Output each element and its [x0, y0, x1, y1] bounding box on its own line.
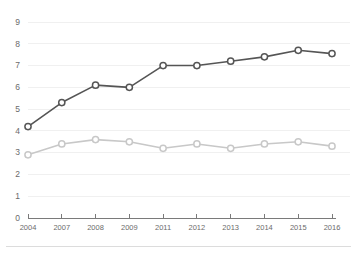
data-point-dark-series	[295, 47, 301, 53]
x-axis-tick-label: 2011	[155, 223, 171, 232]
x-axis-tick-labels: 2004200720082009201120122013201420152016	[20, 223, 341, 232]
y-axis-tick-label: 6	[15, 82, 20, 92]
series-markers	[25, 47, 335, 158]
x-axis-tick-label: 2008	[87, 223, 104, 232]
x-axis-tick-label: 2014	[256, 223, 273, 232]
y-axis-tick-label: 3	[15, 147, 20, 157]
data-point-dark-series	[194, 62, 200, 68]
data-point-light-series	[59, 141, 65, 147]
y-axis-tick-label: 4	[15, 126, 20, 136]
data-point-light-series	[160, 145, 166, 151]
data-point-dark-series	[261, 54, 267, 60]
gridlines	[28, 22, 350, 196]
data-point-dark-series	[25, 123, 31, 129]
y-axis-tick-labels: 0123456789	[15, 17, 20, 223]
data-point-dark-series	[160, 62, 166, 68]
x-axis-tick-label: 2009	[121, 223, 138, 232]
data-point-light-series	[228, 145, 234, 151]
series-line-dark-series	[28, 50, 332, 126]
line-chart: 0123456789 20042007200820092011201220132…	[0, 0, 357, 254]
data-point-dark-series	[59, 99, 65, 105]
y-axis-tick-label: 7	[15, 60, 20, 70]
data-point-light-series	[92, 137, 98, 143]
x-axis-tick-marks	[28, 214, 332, 218]
y-axis-tick-label: 8	[15, 39, 20, 49]
data-point-light-series	[261, 141, 267, 147]
data-point-light-series	[126, 139, 132, 145]
chart-canvas: 0123456789 20042007200820092011201220132…	[0, 0, 357, 254]
x-axis-tick-label: 2004	[20, 223, 37, 232]
y-axis-tick-label: 1	[15, 191, 20, 201]
x-axis-tick-label: 2016	[324, 223, 341, 232]
x-axis-tick-label: 2012	[189, 223, 206, 232]
x-axis-tick-label: 2013	[222, 223, 239, 232]
y-axis-tick-label: 2	[15, 169, 20, 179]
data-point-light-series	[329, 143, 335, 149]
x-axis-tick-label: 2007	[53, 223, 70, 232]
data-point-dark-series	[329, 50, 335, 56]
x-axis-tick-label: 2015	[290, 223, 307, 232]
data-point-light-series	[295, 139, 301, 145]
y-axis-tick-label: 5	[15, 104, 20, 114]
y-axis-tick-label: 0	[15, 213, 20, 223]
data-point-light-series	[194, 141, 200, 147]
data-point-dark-series	[126, 84, 132, 90]
data-point-dark-series	[92, 82, 98, 88]
data-point-light-series	[25, 152, 31, 158]
y-axis-tick-label: 9	[15, 17, 20, 27]
data-point-dark-series	[228, 58, 234, 64]
